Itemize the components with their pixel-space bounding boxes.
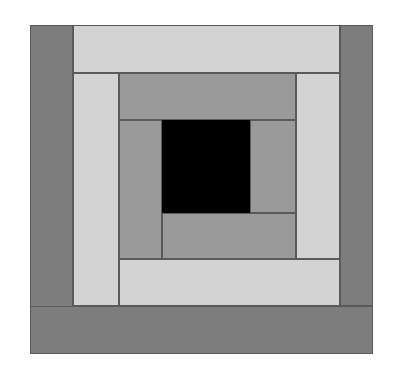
- center-black-square: [162, 120, 250, 213]
- inner-bottom-medium-strip: [162, 213, 296, 259]
- outer-left-dark-strip: [30, 25, 73, 354]
- inner-right-medium-strip: [250, 120, 296, 213]
- outer-top-light-strip: [73, 25, 340, 73]
- mid-top-medium-strip: [119, 73, 296, 120]
- log-cabin-block: [30, 25, 373, 354]
- mid-bottom-light-strip: [119, 259, 340, 306]
- quilt-block-canvas: [0, 0, 396, 380]
- inner-left-medium-strip: [119, 120, 162, 259]
- outer-right-dark-strip: [340, 25, 373, 306]
- outer-bottom-dark-strip: [30, 306, 373, 354]
- mid-right-light-strip: [296, 73, 340, 259]
- mid-left-light-strip: [73, 73, 119, 306]
